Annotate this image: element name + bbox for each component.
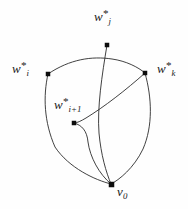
edge-wi1-to-v0 [74, 123, 111, 184]
node-label-wi1: w*i+1 [54, 96, 81, 114]
node-label-v0-sub: 0 [123, 191, 127, 201]
node-label-wk-base: w [157, 61, 166, 76]
node-label-v0: v0 [117, 185, 127, 201]
node-label-wi1-sub: i+1 [69, 104, 82, 114]
edge-wk-to-v0-right [111, 73, 150, 184]
node-label-wi-base: w [12, 61, 21, 76]
graph-figure: w*j w*i w*k w*i+1 v0 [0, 0, 188, 209]
node-label-wj: w*j [94, 8, 111, 26]
node-label-wi: w*i [12, 60, 29, 78]
edge-wi-to-v0-left [45, 74, 111, 184]
edge-wk-to-wi1-chord [74, 73, 145, 123]
node-label-wk: w*k [157, 60, 176, 78]
node-dot-wj [105, 43, 109, 47]
node-dot-wk [143, 71, 147, 75]
edge-wi-to-wk-top-arc [48, 58, 145, 74]
node-dot-v0 [109, 182, 114, 187]
node-dot-wi [46, 72, 50, 76]
node-label-wj-sub: j [109, 16, 111, 26]
node-label-wk-sub: k [172, 68, 176, 78]
graph-canvas [0, 0, 188, 209]
edge-wj-to-v0 [99, 45, 111, 184]
node-label-wi1-base: w [54, 97, 63, 112]
node-label-wj-base: w [94, 9, 103, 24]
node-label-wi-sub: i [27, 68, 29, 78]
node-dot-wi1 [72, 121, 76, 125]
